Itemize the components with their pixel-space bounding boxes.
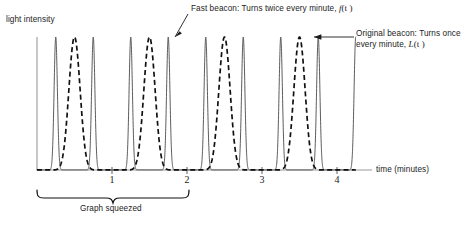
y-axis-label: light intensity [6, 15, 55, 26]
x-axis-label: time (minutes) [376, 165, 429, 176]
original-beacon-annotation: Original beacon: Turns onceevery minute,… [356, 28, 461, 50]
fast-beacon-annotation-text: Fast beacon: Turns twice every minute, [191, 4, 339, 13]
original-beacon-annotation-line1: Original beacon: Turns once [356, 29, 461, 38]
graph-squeezed-brace [37, 190, 189, 203]
original-beacon-curve [37, 37, 356, 170]
original-beacon-function-arg: (t ) [414, 39, 425, 49]
fast-leader-arrowhead [175, 31, 182, 37]
fast-beacon-function-arg: (t ) [342, 3, 353, 13]
x-tick-label-4: 4 [335, 174, 340, 185]
x-tick-label-1: 1 [110, 174, 115, 185]
fast-beacon-curve [37, 37, 356, 170]
fast-beacon-annotation: Fast beacon: Turns twice every minute, f… [191, 3, 353, 15]
beacon-intensity-figure: light intensity time (minutes) Fast beac… [0, 0, 473, 226]
brace-path [37, 190, 189, 203]
annotation-leaders [175, 14, 354, 40]
curves [37, 37, 356, 170]
x-tick-label-3: 3 [260, 174, 265, 185]
graph-squeezed-label: Graph squeezed [80, 204, 142, 215]
original-beacon-annotation-line2: every minute, [356, 40, 409, 49]
x-tick-label-2: 2 [185, 174, 190, 185]
